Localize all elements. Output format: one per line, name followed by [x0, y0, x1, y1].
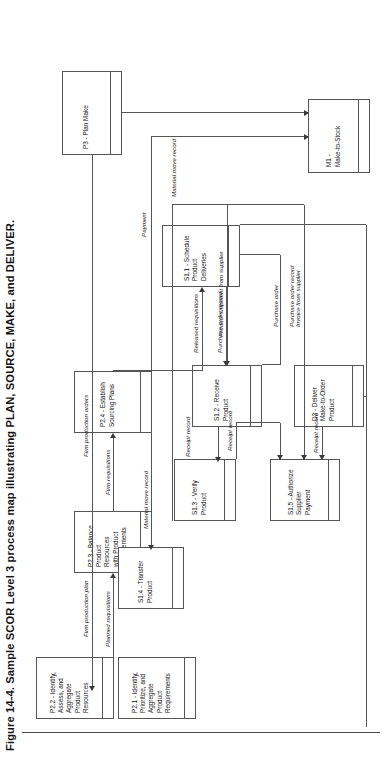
conn-5-horiz — [113, 576, 114, 657]
box-p2-4-footer — [140, 372, 151, 432]
flow-label-firm-requisitions: Firm requisitions — [104, 450, 111, 495]
conn-3-horiz — [151, 136, 152, 547]
flow-label-payment: Payment — [140, 213, 147, 237]
conn-7-horiz — [202, 290, 203, 371]
flow-label-released-requisitions: Released requisitions — [192, 294, 199, 353]
figure-page: Figure 14-4. Sample SCOR Level 3 process… — [0, 0, 384, 757]
conn-9-vert-b — [262, 364, 280, 365]
box-s1-5-footer — [328, 460, 339, 520]
box-m1-label: M1 - Make-to-Stock — [325, 126, 341, 167]
flow-label-purchase-order: Purchase order — [272, 285, 279, 327]
box-m1-footer — [358, 100, 369, 172]
box-p2-4-label: P2.4 - Establish Sourcing Plans — [99, 382, 115, 427]
box-s1-5-body: S1.5 - Authorize Supplier Payment — [271, 460, 328, 520]
conn-2-arrowhead — [89, 686, 95, 691]
conn-14-horiz — [322, 427, 323, 457]
flow-label-firm-production-orders: Firm production orders — [82, 395, 89, 457]
conn-4-arrowhead — [148, 545, 154, 550]
conn-13-horiz — [236, 423, 237, 459]
conn-2-horiz — [92, 155, 93, 688]
box-s1-4[interactable]: S1.4 - Transfer Product — [118, 547, 184, 609]
conn-17-vert — [364, 396, 366, 397]
conn-4-horiz — [151, 519, 152, 547]
conn-1-arrowhead — [304, 110, 309, 116]
conn-7-vert — [113, 370, 202, 371]
conn-9-vert-a — [240, 254, 280, 255]
conn-14-arrowhead — [319, 455, 325, 460]
flow-label-product-shipment: Product shipment from supplier — [217, 251, 224, 337]
box-d2-footer — [352, 366, 363, 426]
box-p3[interactable]: P3 - Plan Make — [62, 71, 122, 155]
box-s1-5-label: S1.5 - Authorize Supplier Payment — [287, 470, 312, 515]
box-s1-2-footer — [250, 366, 261, 426]
flow-label-receipt-record-a: Receipt record — [184, 417, 191, 457]
box-p2-1-body: P2.1 - Identify, Prioritize, and Aggrega… — [119, 658, 184, 718]
flow-label-receipt-record-c: Receipt record — [312, 413, 319, 453]
conn-6-horiz — [113, 436, 114, 511]
conn-1-vert — [122, 112, 308, 113]
box-m1-body: M1 - Make-to-Stock — [309, 100, 358, 172]
conn-5-arrowhead — [110, 573, 116, 578]
box-s1-4-body: S1.4 - Transfer Product — [119, 548, 172, 608]
box-p2-2-footer — [102, 658, 113, 718]
box-s1-2-body: S1.2 - Receive Product — [193, 366, 250, 426]
conn-13-arrowhead — [277, 455, 283, 460]
conn-10-horiz — [366, 225, 367, 727]
box-s1-1[interactable]: S1.1 - Schedule Product Deliveries — [162, 225, 240, 287]
box-s1-4-footer — [172, 548, 183, 608]
flow-label-material-move-record-m1: Material move record — [170, 139, 177, 197]
conn-13-vert — [236, 422, 280, 423]
conn-15-horiz — [304, 205, 305, 457]
conn-13-horiz-b — [280, 423, 281, 457]
box-s1-3[interactable]: S1.3 - Verify Product — [174, 459, 236, 521]
conn-6-arrowhead — [110, 433, 116, 438]
conn-3-arrowhead — [304, 134, 309, 140]
conn-15-arrowhead — [301, 455, 307, 460]
flow-label-firm-production-plan: Firm production plan — [82, 581, 89, 637]
process-map: P2.2 - Identify, Assess, and Aggregate P… — [22, 0, 382, 757]
box-p3-footer — [110, 72, 121, 154]
box-p2-1[interactable]: P2.1 - Identify, Prioritize, and Aggrega… — [118, 657, 196, 719]
conn-3-vert — [151, 136, 308, 137]
box-s1-5[interactable]: S1.5 - Authorize Supplier Payment — [270, 459, 340, 521]
box-s1-3-body: S1.3 - Verify Product — [175, 460, 224, 520]
box-m1[interactable]: M1 - Make-to-Stock — [308, 99, 370, 173]
box-p2-1-label: P2.1 - Identify, Prioritize, and Aggrega… — [131, 672, 172, 713]
box-p2-2[interactable]: P2.2 - Identify, Assess, and Aggregate P… — [36, 657, 114, 719]
conn-12-horiz — [218, 427, 219, 459]
conn-11b-horiz — [227, 205, 228, 363]
box-s1-3-footer — [224, 460, 235, 520]
conn-10-vert-b — [240, 224, 366, 225]
conn-7-arrowhead — [199, 287, 205, 292]
flow-label-receipt-record-b: Receipt record — [226, 411, 233, 451]
box-p3-label: P3 - Plan Make — [82, 105, 90, 149]
box-p2-2-label: P2.2 - Identify, Assess, and Aggregate P… — [49, 672, 90, 713]
box-s1-1-label: S1.1 - Schedule Product Deliveries — [183, 236, 208, 281]
conn-16-vert — [172, 204, 304, 205]
conn-9-horiz — [280, 255, 281, 365]
conn-12-arrowhead — [215, 457, 221, 462]
conn-16-horiz — [172, 205, 173, 521]
box-p3-body: P3 - Plan Make — [63, 72, 110, 154]
rotated-diagram-canvas: Figure 14-4. Sample SCOR Level 3 process… — [0, 0, 384, 757]
flow-label-invoice-from-supplier: Invoice from supplier — [294, 270, 301, 327]
conn-11b-arrowhead — [224, 361, 230, 366]
flow-label-planned-requisitions: Planned requisitions — [104, 591, 111, 647]
figure-caption: Figure 14-4. Sample SCOR Level 3 process… — [4, 11, 16, 751]
box-s1-3-label: S1.3 - Verify Product — [191, 480, 207, 515]
box-p2-1-footer — [184, 658, 195, 718]
box-s1-1-footer — [228, 226, 239, 286]
flow-label-material-move-record-s14: Material move record — [142, 471, 149, 529]
box-s1-4-label: S1.4 - Transfer Product — [137, 561, 153, 603]
